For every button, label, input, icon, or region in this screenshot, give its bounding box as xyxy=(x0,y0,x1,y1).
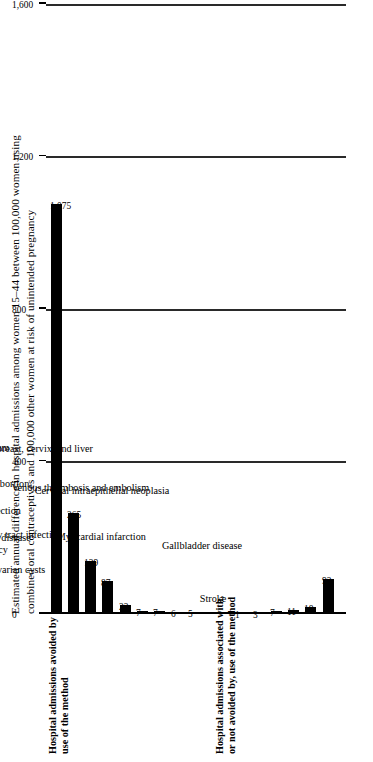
category-label: Invasive cancers of breast, cervix, and … xyxy=(0,443,93,454)
gridline xyxy=(46,4,346,6)
category-label: Ectopic pregnancy xyxy=(0,544,8,555)
axis-tick-label: 0 xyxy=(12,610,17,620)
axis-tick-label: 400 xyxy=(12,458,26,468)
axis-tick xyxy=(39,3,46,5)
category-label: Upper genital tract infection xyxy=(0,505,21,516)
axis-tick xyxy=(39,308,46,310)
bar-value-label: 93 xyxy=(322,576,331,586)
bar-value-label: 3 xyxy=(253,610,258,620)
bar-value-label: 139 xyxy=(84,558,98,568)
category-label: Ovarian cysts xyxy=(0,564,46,575)
bar-value-label: 5 xyxy=(188,609,193,619)
plot-area: 04008001,2001,6001,075Cesarean delivery2… xyxy=(46,4,346,614)
bar-value-label: 6 xyxy=(171,609,176,619)
bar-value-label: 7 xyxy=(136,608,141,618)
bar-value-label: 265 xyxy=(67,510,81,520)
section-heading-line: Hospital admissions associated with, xyxy=(214,596,226,754)
gridline xyxy=(46,309,346,311)
gridline xyxy=(46,462,346,464)
axis-tick xyxy=(39,155,46,157)
bar-value-label: 7 xyxy=(270,608,275,618)
category-label: Cervical intraepithelial neoplasia xyxy=(35,485,170,496)
section-heading: Hospital admissions avoided byuse of the… xyxy=(47,617,72,754)
bar xyxy=(68,513,79,614)
axis-tick xyxy=(39,613,46,615)
bar-value-label: 18 xyxy=(304,604,313,614)
category-label: Urinary tract infection xyxy=(0,529,62,540)
bar-value-label: 87 xyxy=(101,578,110,588)
axis-tick-label: 800 xyxy=(12,305,26,315)
bar-value-label: 23 xyxy=(119,602,128,612)
section-heading: Hospital admissions associated with,or n… xyxy=(214,596,239,754)
chart-figure: Estimated annual difference in hospital … xyxy=(0,0,373,762)
gridline xyxy=(46,157,346,159)
bar-value-label: 7 xyxy=(153,608,158,618)
bar xyxy=(85,561,96,614)
axis-tick-label: 1,600 xyxy=(12,0,33,10)
category-label: Myocardial infarction xyxy=(57,531,146,542)
bar-value-label: 11 xyxy=(287,607,296,617)
bar xyxy=(51,204,62,614)
axis-tick xyxy=(39,460,46,462)
section-heading-line: or not avoided by, use of the method xyxy=(226,596,238,754)
section-heading-line: Hospital admissions avoided by xyxy=(47,617,59,754)
category-label: Gallbladder disease xyxy=(162,540,242,551)
bar-value-label: 1,075 xyxy=(50,201,71,211)
axis-tick-label: 1,200 xyxy=(12,153,33,163)
section-heading-line: use of the method xyxy=(59,617,71,754)
